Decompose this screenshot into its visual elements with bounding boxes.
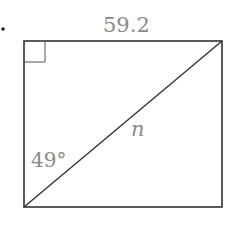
bullet-dot	[1, 27, 5, 31]
top-side-label: 59.2	[103, 13, 150, 37]
geometry-diagram: 59.2 n 49°	[0, 0, 234, 226]
diagonal-label: n	[131, 117, 145, 141]
right-angle-mark-icon	[24, 41, 45, 62]
angle-label: 49°	[31, 148, 66, 172]
diagonal-line	[24, 41, 222, 207]
